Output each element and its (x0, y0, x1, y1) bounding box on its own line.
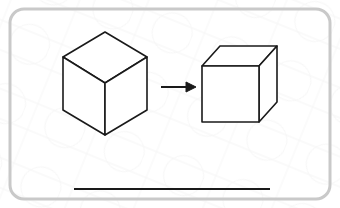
cabinet-cube-front-face (202, 66, 259, 122)
cube-transformation-figure (0, 0, 340, 208)
cabinet-projection-cube (202, 46, 277, 122)
background-watermark (0, 0, 340, 208)
diagram-canvas: Cube Transformation Diagram (0, 0, 340, 208)
